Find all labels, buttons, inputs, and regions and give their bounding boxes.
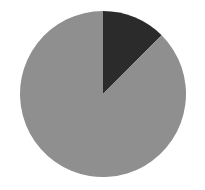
pie-chart	[0, 0, 205, 190]
pie-slices	[20, 11, 186, 177]
